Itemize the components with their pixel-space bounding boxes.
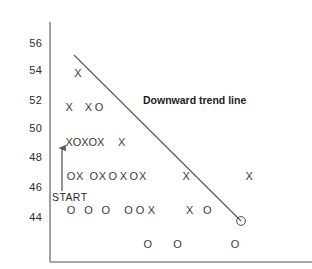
- data-point-x: X: [184, 205, 196, 216]
- data-point-o: O: [142, 239, 154, 250]
- data-point-x: X: [116, 137, 128, 148]
- data-point-o: O: [82, 205, 94, 216]
- chart-overlay-layer: [0, 0, 312, 269]
- data-point-o: O: [87, 137, 99, 148]
- data-point-x: X: [145, 205, 157, 216]
- data-point-o: O: [134, 205, 146, 216]
- scatter-chart: 56 54 52 50 48 46 44 Downward trend line…: [0, 0, 312, 269]
- data-point-o: O: [123, 205, 135, 216]
- data-point-o: O: [201, 205, 213, 216]
- data-point-x: X: [72, 68, 84, 79]
- data-point-o: O: [128, 171, 140, 182]
- data-point-o: O: [100, 205, 112, 216]
- data-point-o: O: [71, 137, 83, 148]
- data-point-o: O: [172, 239, 184, 250]
- data-point-x: X: [180, 171, 192, 182]
- data-point-o: O: [88, 171, 100, 182]
- trend-line-annotation: Downward trend line: [143, 95, 246, 106]
- data-point-o: O: [229, 239, 241, 250]
- data-point-o: O: [93, 102, 105, 113]
- data-point-o: O: [107, 171, 119, 182]
- data-point-o: O: [65, 171, 77, 182]
- data-point-x: X: [243, 171, 255, 182]
- data-point-x: X: [63, 102, 75, 113]
- start-annotation: START: [52, 192, 87, 203]
- data-point-o: O: [65, 205, 77, 216]
